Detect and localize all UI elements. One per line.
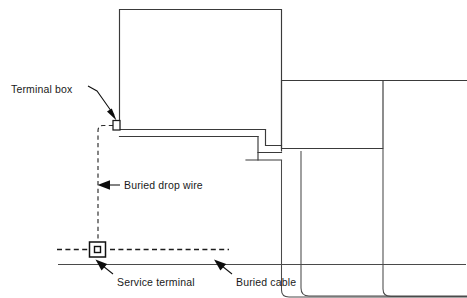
terminal-box-label: Terminal box [11, 83, 73, 95]
buried-cable-label: Buried cable [236, 276, 296, 288]
service-terminal-label: Service terminal [117, 276, 195, 288]
service-terminal-leader [96, 260, 114, 275]
main-building-outline [120, 10, 282, 152]
buried-cable-leader [214, 260, 232, 275]
annex-building-outline [282, 81, 467, 149]
diagram-canvas: Terminal box Buried drop wire Service te… [0, 0, 467, 298]
buried-drop-wire-label: Buried drop wire [124, 179, 203, 191]
building-step-detail [120, 130, 282, 161]
buried-drop-wire-leader [98, 180, 121, 189]
terminal-box-symbol [113, 121, 120, 131]
terminal-box-leader [88, 86, 117, 121]
service-terminal-symbol [90, 242, 106, 257]
walkway-lines [282, 149, 467, 298]
